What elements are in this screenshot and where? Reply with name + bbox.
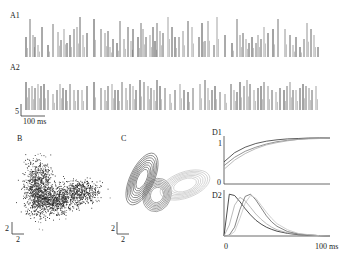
figure-canvas bbox=[0, 0, 346, 255]
line-plot-d2 bbox=[224, 190, 330, 236]
contour-plot-c bbox=[119, 149, 214, 216]
spike-raster-a2 bbox=[26, 80, 318, 110]
spike-raster-a1 bbox=[26, 17, 318, 57]
scale-bar-b bbox=[12, 222, 24, 234]
line-plot-d1 bbox=[224, 136, 330, 184]
scale-bar-c bbox=[117, 222, 129, 234]
scatter-plot-b bbox=[16, 153, 111, 230]
